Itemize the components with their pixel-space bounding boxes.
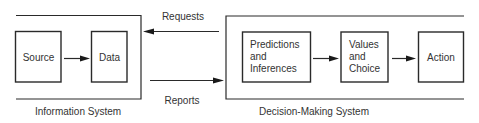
values-label-line-1: Values	[349, 39, 379, 50]
source-label: Source	[23, 52, 55, 63]
reports-arrow	[150, 78, 224, 84]
source-node: Source	[16, 32, 62, 83]
data-node: Data	[92, 32, 128, 83]
source-to-data-arrow	[64, 56, 90, 62]
reports-label: Reports	[164, 95, 199, 106]
data-label: Data	[99, 52, 121, 63]
predictions-label-line-3: Inferences	[250, 63, 297, 74]
predictions-to-values-arrow	[313, 56, 339, 62]
values-label-line-2: and	[349, 51, 366, 62]
values-to-action-arrow	[392, 56, 416, 62]
arrowhead-icon	[213, 78, 224, 84]
information-system-label: Information System	[35, 106, 121, 117]
diagram-canvas: Source Data Information System Requests …	[0, 0, 479, 123]
values-label-line-3: Choice	[349, 63, 381, 74]
decision-system-label: Decision-Making System	[259, 106, 369, 117]
arrowhead-icon	[143, 29, 154, 35]
arrowhead-icon	[329, 56, 339, 62]
action-label: Action	[427, 52, 455, 63]
requests-label: Requests	[162, 11, 204, 22]
arrowhead-icon	[406, 56, 416, 62]
action-node: Action	[419, 32, 464, 82]
predictions-node: Predictions and Inferences	[243, 32, 311, 82]
predictions-label-line-2: and	[250, 51, 267, 62]
requests-arrow	[143, 29, 219, 35]
arrowhead-icon	[80, 56, 90, 62]
values-node: Values and Choice	[341, 32, 388, 82]
predictions-label-line-1: Predictions	[250, 39, 299, 50]
